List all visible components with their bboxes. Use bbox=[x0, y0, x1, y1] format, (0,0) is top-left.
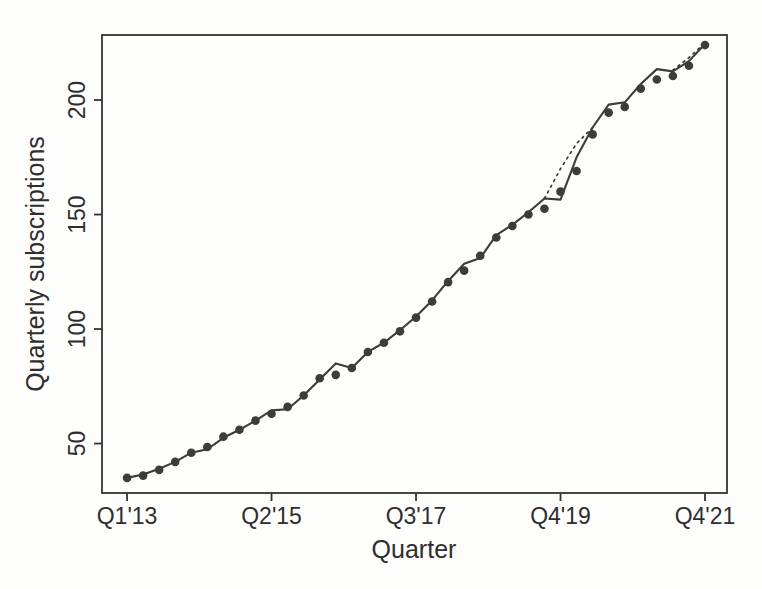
observed-point bbox=[155, 466, 164, 475]
observed-point bbox=[331, 371, 340, 380]
observed-point bbox=[444, 278, 453, 287]
y-tick-label: 150 bbox=[64, 195, 90, 233]
observed-point bbox=[315, 374, 324, 383]
observed-point bbox=[171, 458, 180, 467]
observed-point bbox=[235, 425, 244, 434]
dotted-fit-segment bbox=[544, 128, 592, 199]
observed-point bbox=[348, 364, 357, 373]
observed-point bbox=[283, 403, 292, 412]
observed-point bbox=[123, 474, 132, 483]
observed-point bbox=[508, 222, 517, 231]
x-tick-label: Q4'19 bbox=[530, 503, 591, 529]
observed-point bbox=[251, 416, 260, 425]
observed-point bbox=[412, 313, 421, 322]
y-tick-label: 100 bbox=[64, 310, 90, 348]
observed-point bbox=[540, 205, 549, 214]
observed-point bbox=[219, 432, 228, 441]
x-axis-title: Quarter bbox=[372, 535, 457, 563]
observed-point bbox=[524, 210, 533, 219]
observed-point bbox=[267, 409, 276, 418]
observed-point bbox=[588, 130, 597, 139]
observed-point bbox=[476, 251, 485, 260]
observed-point bbox=[299, 391, 308, 400]
observed-point bbox=[139, 471, 148, 480]
y-tick-label: 50 bbox=[64, 431, 90, 457]
observed-point bbox=[653, 75, 662, 84]
observed-point bbox=[380, 338, 389, 347]
observed-point bbox=[203, 443, 212, 452]
observed-point bbox=[428, 297, 437, 306]
x-tick-label: Q2'15 bbox=[241, 503, 302, 529]
quarterly-subscriptions-figure: 20015010050Q4'21Q4'19Q3'17Q2'15Q1'13 Qua… bbox=[0, 0, 762, 589]
y-axis-title: Quarterly subscriptions bbox=[21, 136, 49, 392]
observed-point bbox=[556, 187, 565, 196]
observed-point bbox=[572, 167, 581, 176]
observed-point bbox=[701, 41, 710, 50]
x-tick-label: Q1'13 bbox=[97, 503, 158, 529]
observed-point bbox=[685, 61, 694, 70]
y-tick-label: 200 bbox=[64, 81, 90, 119]
x-tick-label: Q4'21 bbox=[675, 503, 736, 529]
observed-point bbox=[620, 103, 629, 112]
observed-point bbox=[604, 108, 613, 117]
observed-point bbox=[669, 72, 678, 81]
x-tick-label: Q3'17 bbox=[386, 503, 447, 529]
observed-point bbox=[364, 348, 373, 357]
fitted-line bbox=[127, 44, 705, 478]
plot-border bbox=[102, 35, 727, 493]
subscriptions-line-chart: 20015010050Q4'21Q4'19Q3'17Q2'15Q1'13 Qua… bbox=[0, 0, 762, 589]
observed-point bbox=[187, 448, 196, 457]
observed-point bbox=[460, 266, 469, 275]
observed-point bbox=[636, 84, 645, 93]
observed-point bbox=[492, 233, 501, 242]
observed-point bbox=[396, 327, 405, 336]
